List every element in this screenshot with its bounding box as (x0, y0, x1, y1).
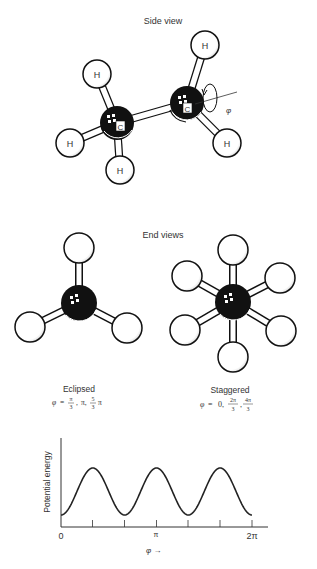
svg-text:π: π (69, 396, 72, 402)
hydrogen-atom (172, 261, 202, 291)
hydrogen-atom (15, 312, 45, 342)
svg-text:2π: 2π (230, 397, 236, 403)
eclipsed-label: Eclipsed (63, 384, 95, 394)
side-view-title: Side view (144, 16, 183, 26)
svg-text:π,: π, (81, 398, 87, 407)
hydrogen-atom (170, 315, 200, 345)
x-tick-label: 2π (246, 531, 257, 541)
svg-text:C: C (185, 105, 191, 114)
hydrogen-atom: H (56, 129, 84, 157)
y-axis-label: Potential energy (42, 451, 52, 513)
svg-text:,: , (76, 398, 78, 407)
hydrogen-atom (218, 235, 248, 265)
svg-text:3: 3 (247, 406, 250, 412)
phi-label: φ (226, 106, 231, 115)
svg-text:3: 3 (92, 404, 95, 410)
hydrogen-atom: H (213, 129, 241, 157)
x-axis-label: φ → (146, 546, 161, 555)
svg-text:C: C (118, 123, 124, 132)
potential-energy-curve (61, 468, 252, 515)
hydrogen-atom (266, 316, 296, 346)
svg-text:π: π (98, 398, 102, 407)
svg-text:4π: 4π (245, 397, 251, 403)
svg-text:H: H (224, 139, 231, 149)
svg-text:H: H (202, 41, 209, 51)
svg-text:3: 3 (70, 404, 73, 410)
svg-text:H: H (67, 139, 74, 149)
staggered-end-view (170, 235, 296, 372)
svg-text:H: H (94, 70, 101, 80)
svg-text:5: 5 (92, 396, 95, 402)
eclipsed-angles: φ = π 3 , π, 5 3 π (52, 396, 102, 410)
end-views-title: End views (142, 230, 184, 240)
svg-text:=: = (208, 400, 213, 409)
x-tick-label: π (154, 531, 159, 538)
svg-text:H: H (117, 166, 124, 176)
ethane-conformation-figure: Side view H H H (0, 0, 317, 569)
potential-energy-chart: 0 π 2π φ → Potential energy (42, 438, 268, 555)
eclipsed-end-view (15, 233, 142, 343)
staggered-label: Staggered (210, 385, 249, 395)
svg-text:=: = (60, 398, 64, 407)
x-tick-label: 0 (58, 531, 63, 541)
hydrogen-atom: H (106, 156, 134, 184)
hydrogen-atom (64, 233, 94, 263)
svg-text:φ: φ (200, 400, 205, 409)
carbon-atom-left: C (100, 106, 134, 140)
svg-text:3: 3 (232, 406, 235, 412)
hydrogen-atom (218, 342, 248, 372)
svg-text:0,: 0, (218, 400, 224, 409)
hydrogen-atom (265, 263, 295, 293)
hydrogen-atom: H (83, 60, 111, 88)
x-ticks (93, 520, 253, 527)
side-view-molecule: H H H H H C (56, 31, 241, 184)
staggered-angles: φ = 0, 2π 3 , 4π 3 (200, 397, 253, 412)
hydrogen-atom: H (191, 31, 219, 59)
svg-text:,: , (240, 400, 242, 409)
svg-text:φ: φ (52, 398, 56, 407)
hydrogen-atom (112, 313, 142, 343)
